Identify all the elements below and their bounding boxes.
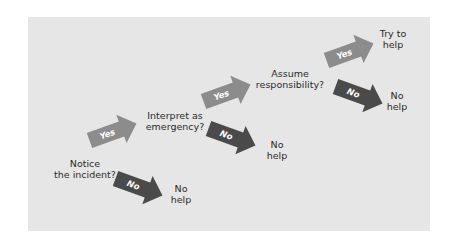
question-notice-incident: Notice the incident? — [50, 158, 120, 180]
outcome-no-help-1: No help — [166, 183, 196, 205]
outcome-try-to-help: Try to help — [373, 28, 413, 50]
outcome-no-help-2: No help — [262, 139, 292, 161]
question-interpret-emergency: Interpret as emergency? — [140, 110, 210, 132]
outcome-no-help-3: No help — [382, 90, 412, 112]
question-assume-responsibility: Assume responsibility? — [250, 68, 330, 90]
